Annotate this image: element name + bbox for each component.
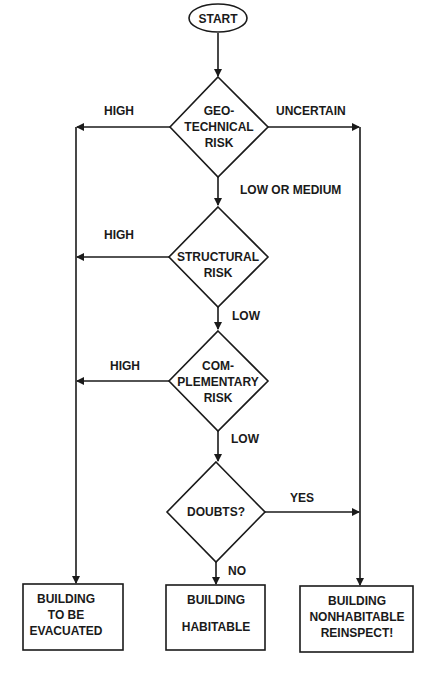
geo-line-1: GEO-: [204, 104, 235, 118]
label-structural-low: LOW: [232, 309, 261, 323]
nonhabitable-line-1: BUILDING: [328, 594, 386, 608]
evacuate-line-3: EVACUATED: [30, 624, 103, 638]
label-comp-high: HIGH: [110, 359, 140, 373]
label-geo-low-medium: LOW OR MEDIUM: [240, 183, 341, 197]
outcome-nonhabitable: BUILDING NONHABITABLE REINSPECT!: [300, 586, 413, 652]
comp-line-1: COM-: [202, 359, 234, 373]
structural-line-1: STRUCTURAL: [177, 250, 259, 264]
evacuate-line-2: TO BE: [48, 608, 84, 622]
geotechnical-risk-decision: GEO- TECHNICAL RISK: [170, 77, 268, 177]
complementary-risk-decision: COM- PLEMENTARY RISK: [169, 331, 268, 431]
structural-risk-decision: STRUCTURAL RISK: [169, 207, 268, 307]
comp-line-2: PLEMENTARY: [177, 375, 258, 389]
habitable-line-1: BUILDING: [187, 593, 245, 607]
evacuate-line-1: BUILDING: [37, 592, 95, 606]
geo-line-2: TECHNICAL: [184, 120, 253, 134]
start-label: START: [198, 12, 238, 26]
label-structural-high: HIGH: [104, 228, 134, 242]
doubts-label: DOUBTS?: [187, 505, 245, 519]
label-geo-uncertain: UNCERTAIN: [276, 104, 346, 118]
label-doubts-no: NO: [228, 564, 246, 578]
flowchart: START GEO- TECHNICAL RISK STRUCTURAL RIS…: [0, 0, 439, 694]
label-comp-low: LOW: [231, 432, 260, 446]
habitable-line-2: HABITABLE: [182, 620, 250, 634]
label-doubts-yes: YES: [290, 491, 314, 505]
start-node: START: [189, 4, 247, 32]
doubts-decision: DOUBTS?: [167, 462, 265, 562]
outcome-habitable: BUILDING HABITABLE: [166, 585, 265, 650]
outcome-evacuate: BUILDING TO BE EVACUATED: [23, 584, 123, 650]
comp-line-3: RISK: [204, 391, 233, 405]
nonhabitable-line-2: NONHABITABLE: [309, 610, 404, 624]
structural-line-2: RISK: [204, 266, 233, 280]
geo-line-3: RISK: [205, 136, 234, 150]
nonhabitable-line-3: REINSPECT!: [321, 626, 394, 640]
label-geo-high: HIGH: [104, 104, 134, 118]
